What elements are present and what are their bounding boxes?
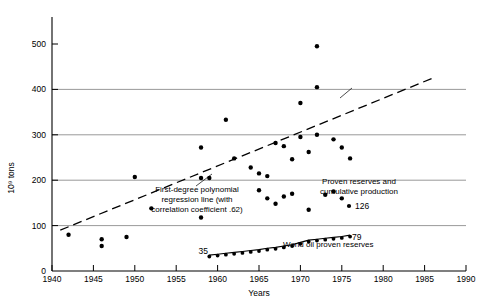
regression-annotation-line-2: regression line (with [161,195,232,204]
scatter-point [265,196,269,200]
scatter-point [315,133,319,137]
scatter-point [273,202,277,206]
y-tick-labels: 500 400 300 200 100 0 [32,39,46,276]
scatter-point [331,137,335,141]
scatter-point [290,157,294,161]
x-tick-marks [52,265,466,271]
regression-annotation-line-3: correlation coefficient .62) [151,205,243,214]
scatter-point [340,145,344,149]
scatter-point [298,101,302,105]
scatter-point [282,144,286,148]
x-tick-label-1960: 1960 [208,274,227,284]
y-tick-label-300: 300 [32,130,46,140]
scatter-points-group [66,44,352,248]
scatter-point [348,156,352,160]
regression-annotation: First-degree polynomial regression line … [151,185,243,214]
x-tick-label-1980: 1980 [374,274,393,284]
proven-annotation-line-2: cumulative production [320,187,398,196]
y-tick-label-200: 200 [32,175,46,185]
reserves-marker [224,253,228,257]
scatter-point [232,156,236,160]
scatter-point [315,85,319,89]
y-tick-marks [52,44,58,226]
scatter-point [282,194,286,198]
x-tick-label-1955: 1955 [167,274,186,284]
scatter-point [257,171,261,175]
x-tick-label-1985: 1985 [415,274,434,284]
scatter-point [199,176,203,180]
reserves-start-value: 35 [199,246,209,256]
scatter-point [265,174,269,178]
axes [52,17,466,271]
reserves-marker [274,247,278,251]
reserves-end-value: 79 [352,232,362,242]
x-tick-label-1970: 1970 [291,274,310,284]
scatter-point [99,244,103,248]
x-tick-label-1950: 1950 [125,274,144,284]
scatter-point [224,118,228,122]
chart-container: 500 400 300 200 100 0 10⁹ tons 1940 194 [0,0,481,300]
scatter-point [290,192,294,196]
y-tick-label-500: 500 [32,39,46,49]
scatter-point [340,196,344,200]
reserves-marker [241,251,245,255]
proven-annotation-line-1: Proven reserves and [322,177,396,186]
y-tick-label-100: 100 [32,221,46,231]
reserves-marker [216,254,220,258]
scatter-point [315,44,319,48]
scatter-point [199,215,203,219]
y-axis-title: 10⁹ tons [6,162,16,194]
x-tick-label-1945: 1945 [84,274,103,284]
scatter-point [99,237,103,241]
y-tick-label-400: 400 [32,84,46,94]
scatter-point [133,175,137,179]
scatter-point [298,135,302,139]
scatter-point [273,141,277,145]
proven-reserves-annotation: Proven reserves and cumulative productio… [320,177,398,211]
reserves-marker [232,252,236,256]
scatter-point [306,150,310,154]
scatter-plot: 500 400 300 200 100 0 10⁹ tons 1940 194 [0,0,481,300]
x-axis-title: Years [248,288,269,298]
scatter-point [66,232,70,236]
x-tick-label-1990: 1990 [457,274,476,284]
reserves-marker [257,249,261,253]
scatter-point [257,188,261,192]
reserves-marker [249,250,253,254]
reserves-marker [265,248,269,252]
x-tick-labels: 1940 1945 1950 1955 1960 1965 1970 1975 … [43,274,476,284]
scatter-point [249,165,253,169]
gridlines [52,89,466,225]
regression-line [60,78,433,230]
scatter-point [124,235,128,239]
annotation-leaders [183,88,352,186]
x-tick-label-1940: 1940 [43,274,62,284]
x-tick-label-1965: 1965 [250,274,269,284]
scatter-point [306,208,310,212]
x-tick-label-1975: 1975 [332,274,351,284]
scatter-point [199,145,203,149]
regression-annotation-line-1: First-degree polynomial [155,185,239,194]
proven-annotation-sample-dot [347,204,351,208]
proven-annotation-value: 126 [355,201,369,211]
